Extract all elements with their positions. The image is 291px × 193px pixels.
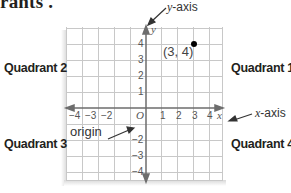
- coordinate-plane: [0, 0, 291, 193]
- x-axis-letter: x: [217, 109, 222, 121]
- x-tick-label: 2: [176, 110, 182, 121]
- y-tick-label: −4: [132, 166, 143, 177]
- quadrant-2-label: Quadrant 2: [4, 61, 67, 75]
- x-tick-label: 3: [192, 110, 198, 121]
- y-axis-callout: y-axis: [167, 0, 198, 15]
- x-tick-label: −3: [85, 110, 96, 121]
- y-tick-label: 4: [138, 38, 144, 49]
- y-axis-letter: y: [151, 23, 156, 35]
- y-tick-label: −2: [132, 134, 143, 145]
- y-tick-label: 2: [138, 70, 144, 81]
- x-tick-label: 4: [207, 110, 213, 121]
- quadrant-3-label: Quadrant 3: [4, 137, 67, 151]
- origin-letter: O: [136, 109, 144, 121]
- quadrant-1-label: Quadrant 1: [231, 61, 291, 75]
- y-axis-callout-text: -axis: [172, 0, 197, 14]
- x-tick-label: 1: [160, 110, 166, 121]
- y-axis-arrow-up: [143, 26, 149, 34]
- point-label: (3, 4): [163, 44, 193, 59]
- origin-callout: origin: [70, 124, 102, 139]
- x-axis-callout-text: -axis: [260, 106, 285, 120]
- x-tick-label: −4: [69, 110, 80, 121]
- grid-lines: [66, 27, 223, 181]
- x-axis-callout: x-axis: [255, 106, 286, 121]
- quadrant-4-label: Quadrant 4: [231, 137, 291, 151]
- y-tick-label: 1: [138, 86, 144, 97]
- axes: [66, 26, 223, 182]
- x-tick-label: −2: [101, 110, 112, 121]
- y-tick-label: 3: [138, 54, 144, 65]
- y-tick-label: −3: [132, 150, 143, 161]
